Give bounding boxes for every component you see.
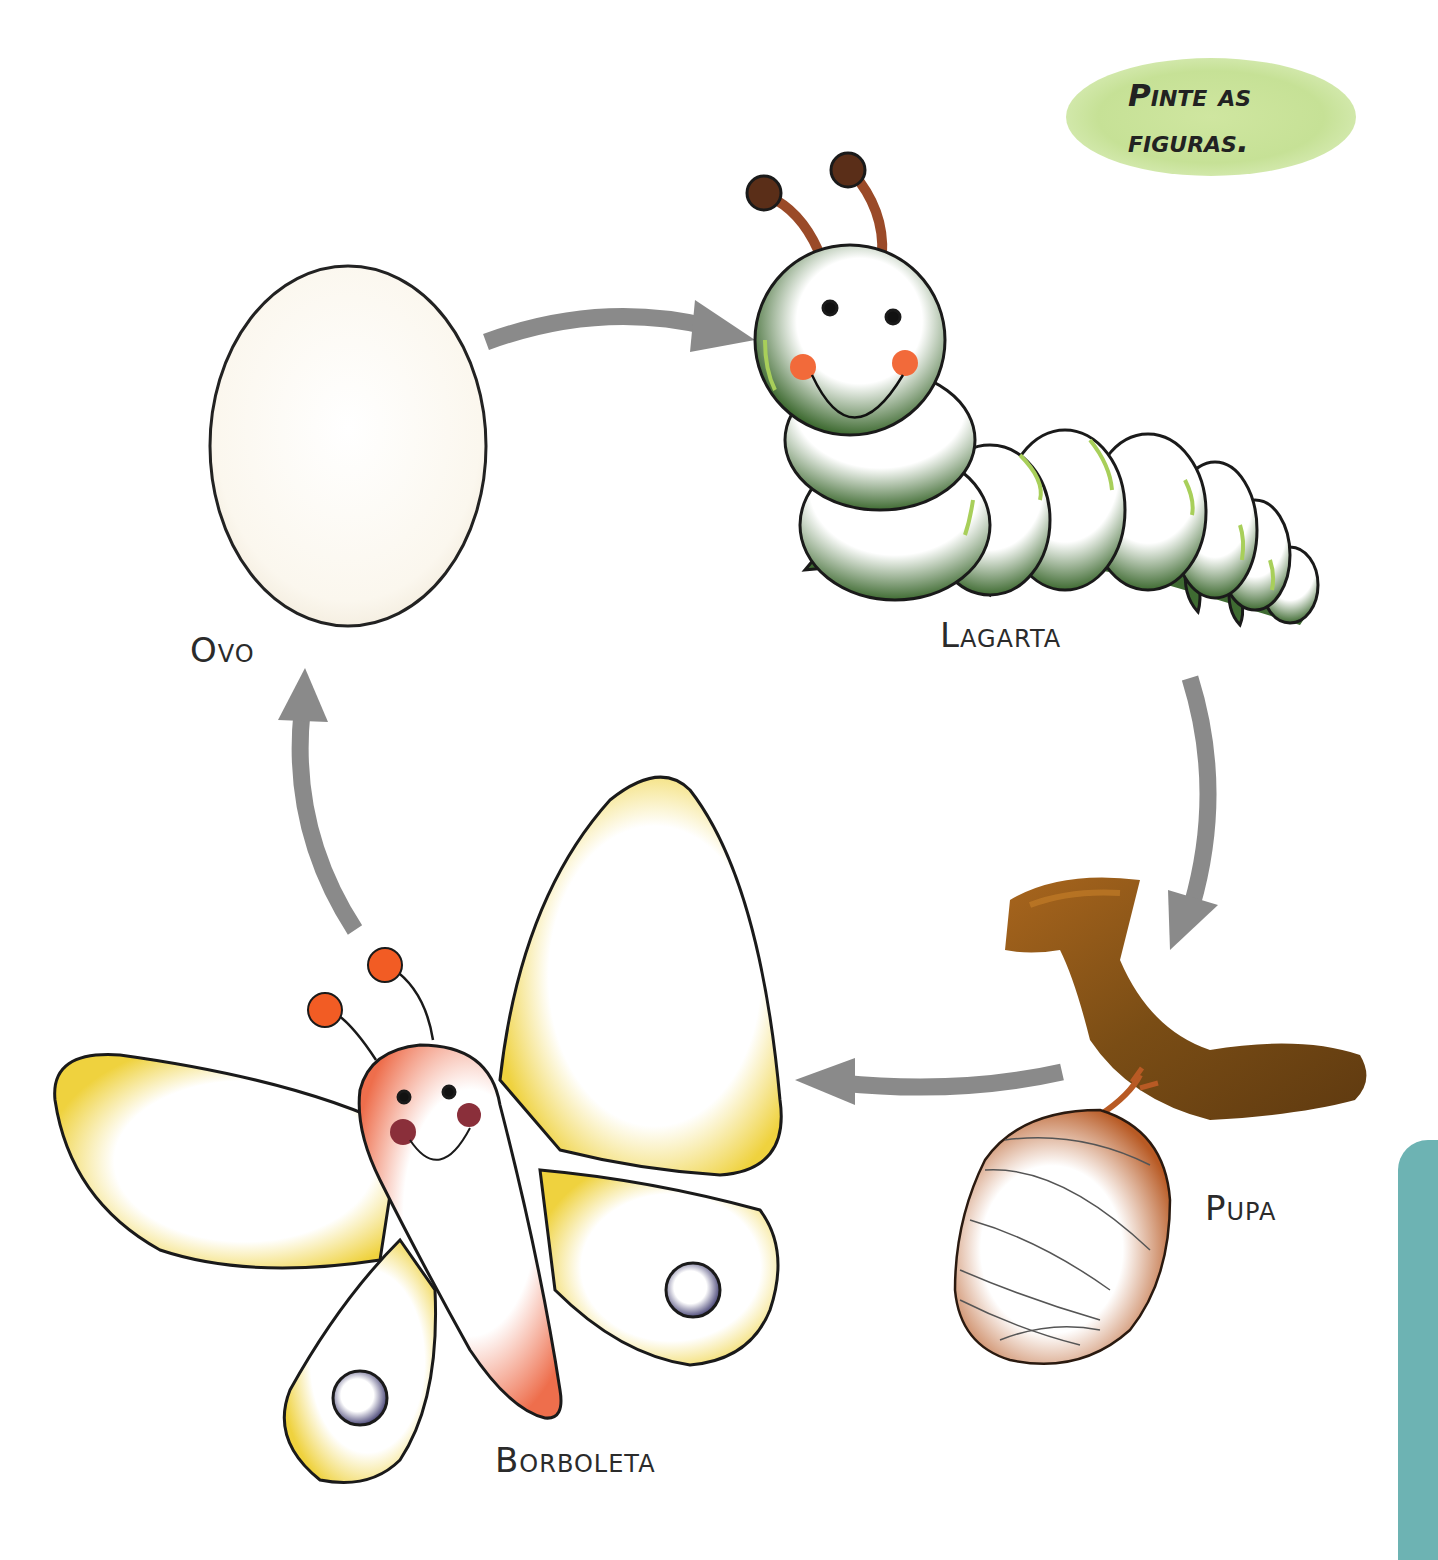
label-pupa: Pupa	[1205, 1188, 1276, 1228]
label-caterpillar: Lagarta	[940, 615, 1061, 655]
arrowhead-icon	[1168, 890, 1218, 950]
label-butterfly: Borboleta	[495, 1440, 656, 1480]
eye-icon	[443, 1086, 455, 1098]
eye-icon	[823, 301, 837, 315]
arrowhead-icon	[795, 1058, 855, 1105]
instruction-line-2: figuras.	[1128, 118, 1318, 164]
instruction-line-1: Pinte as	[1128, 72, 1318, 118]
arrowhead-icon	[278, 668, 328, 722]
eye-icon	[398, 1091, 410, 1103]
arrow-butterfly-to-egg	[300, 712, 355, 930]
arrow-egg-to-caterpillar	[486, 316, 710, 342]
egg-illustration	[210, 266, 486, 626]
caterpillar-illustration	[747, 153, 1318, 625]
arrowhead-icon	[690, 300, 755, 352]
eye-icon	[886, 310, 900, 324]
butterfly-illustration	[55, 777, 782, 1482]
instruction-badge-text: Pinte as figuras.	[1128, 72, 1318, 164]
arrow-pupa-to-butterfly	[840, 1072, 1062, 1087]
label-egg: Ovo	[190, 630, 255, 670]
page-side-tab	[1398, 1140, 1438, 1560]
pupa-illustration	[955, 878, 1366, 1364]
arrow-caterpillar-to-pupa	[1190, 678, 1208, 905]
